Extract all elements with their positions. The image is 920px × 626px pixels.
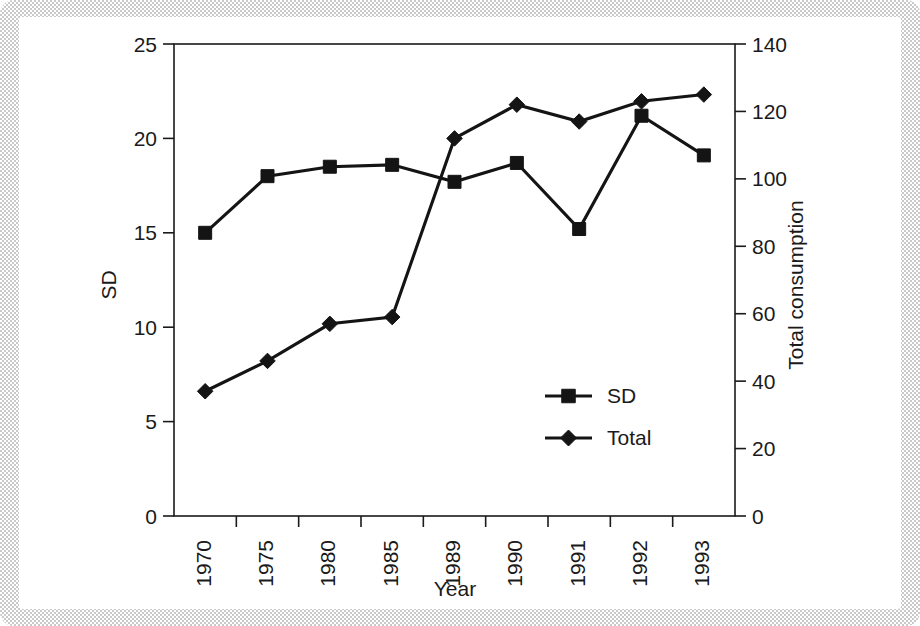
dual-axis-line-chart: 0510152025 020406080100120140 1970197519… [0, 0, 920, 626]
data-point-sd [261, 170, 274, 183]
x-axis-ticks [236, 516, 672, 527]
y-axis-left-title: SD [97, 270, 120, 299]
data-point-total [260, 353, 276, 369]
y-axis-left-tick-label: 0 [145, 505, 157, 528]
x-axis-title: Year [434, 577, 476, 600]
x-axis-tick-label: 1980 [316, 540, 339, 587]
y-axis-right-ticks [735, 44, 746, 516]
y-axis-right-tick-label: 120 [752, 100, 787, 123]
data-point-total [384, 309, 400, 325]
data-point-total [509, 97, 524, 113]
y-axis-left-tick-label: 5 [145, 410, 157, 433]
data-point-total [571, 114, 587, 130]
data-point-total [197, 384, 213, 400]
x-axis-tick-label: 1975 [254, 540, 277, 587]
data-point-total [447, 131, 463, 147]
data-point-sd [697, 149, 710, 162]
chart-legend: SDTotal [545, 384, 651, 449]
legend-marker-sd [562, 389, 576, 403]
data-point-sd [199, 226, 212, 239]
data-point-total [696, 87, 712, 103]
y-axis-left-tick-labels: 0510152025 [134, 33, 157, 528]
data-point-sd [448, 175, 461, 188]
y-axis-right-tick-label: 60 [752, 302, 775, 325]
x-axis-tick-label: 1990 [503, 540, 526, 587]
data-point-total [322, 316, 338, 332]
data-point-total [634, 94, 650, 110]
data-point-sd [573, 223, 586, 236]
legend-label-total: Total [607, 426, 651, 449]
data-point-sd [635, 109, 648, 122]
x-axis-tick-label: 1985 [379, 540, 402, 587]
data-point-sd [323, 160, 336, 173]
y-axis-right-title: Total consumption [784, 200, 807, 369]
x-axis-tick-label: 1970 [192, 540, 215, 587]
data-point-sd [510, 156, 523, 169]
y-axis-right-tick-label: 20 [752, 437, 775, 460]
legend-marker-total [561, 430, 577, 446]
y-axis-right-tick-label: 140 [752, 33, 787, 56]
x-axis-tick-label: 1992 [628, 540, 651, 587]
y-axis-right-tick-labels: 020406080100120140 [752, 33, 787, 528]
y-axis-right-tick-label: 0 [752, 505, 764, 528]
data-point-sd [386, 158, 399, 171]
x-axis-tick-label: 1993 [690, 540, 713, 587]
y-axis-right-tick-label: 40 [752, 370, 775, 393]
y-axis-left-tick-label: 15 [134, 221, 157, 244]
y-axis-left-ticks [163, 44, 174, 516]
y-axis-right-tick-label: 100 [752, 167, 787, 190]
series-layer [197, 87, 711, 399]
y-axis-right-tick-label: 80 [752, 235, 775, 258]
y-axis-left-tick-label: 25 [134, 33, 157, 56]
legend-label-sd: SD [607, 384, 636, 407]
y-axis-left-tick-label: 10 [134, 316, 157, 339]
x-axis-tick-label: 1991 [566, 540, 589, 587]
y-axis-left-tick-label: 20 [134, 127, 157, 150]
